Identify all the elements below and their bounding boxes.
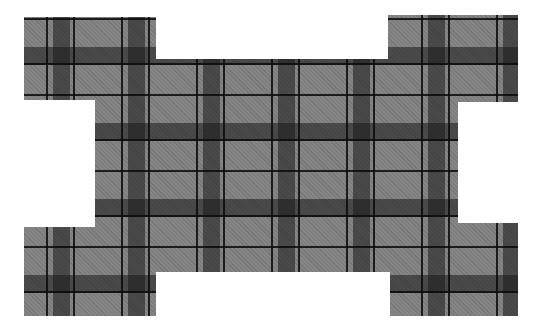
plaid-fabric-cutout [0,0,544,329]
image-canvas [0,0,544,329]
